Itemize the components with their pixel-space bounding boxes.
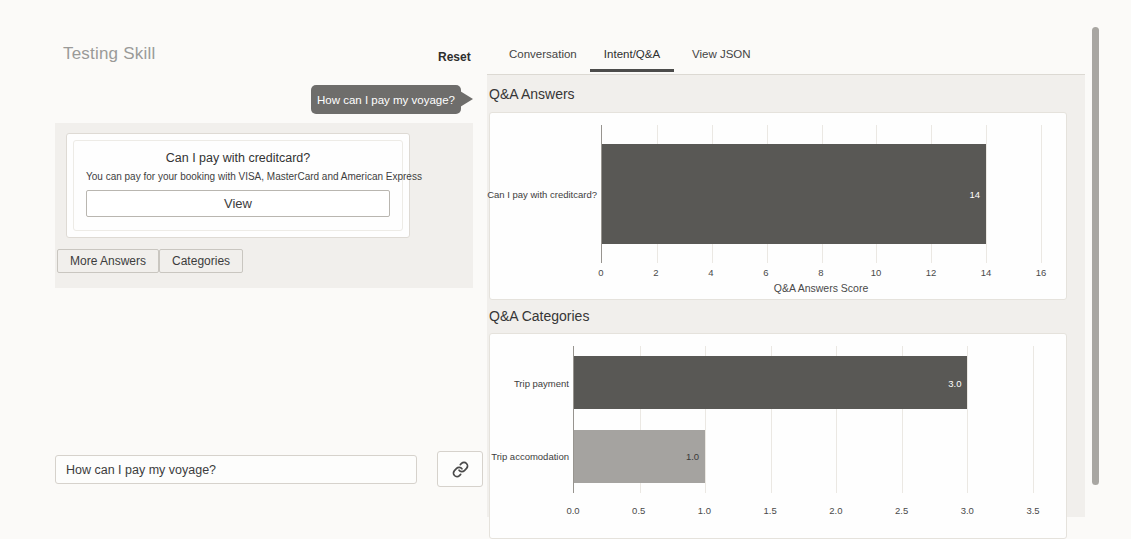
- tab-intent-qa[interactable]: Intent/Q&A: [590, 48, 674, 72]
- x-tick-label: 0.5: [632, 505, 645, 516]
- tab-view-json[interactable]: View JSON: [692, 48, 751, 60]
- tab-conversation[interactable]: Conversation: [509, 48, 577, 60]
- answer-title: Can I pay with creditcard?: [86, 151, 390, 165]
- bar-1: 14: [602, 144, 986, 243]
- category-label: Trip payment: [514, 377, 569, 388]
- y-axis-labels: Can I pay with creditcard?: [494, 125, 597, 263]
- x-tick-label: 2.0: [829, 505, 842, 516]
- message-input[interactable]: [55, 455, 417, 484]
- x-tick-label: 3.5: [1026, 505, 1039, 516]
- send-button[interactable]: [437, 451, 483, 487]
- view-button[interactable]: View: [86, 190, 390, 217]
- tabs-divider: [487, 74, 1085, 75]
- categories-button[interactable]: Categories: [159, 249, 243, 273]
- bar-value-label: 1.0: [686, 451, 699, 462]
- x-tick-label: 6: [763, 267, 768, 278]
- x-tick-label: 2.5: [895, 505, 908, 516]
- plot-area: 14: [601, 125, 1041, 263]
- plot-area: 3.01.0: [573, 346, 1033, 493]
- x-tick-label: 2: [653, 267, 658, 278]
- x-tick-label: 3.0: [961, 505, 974, 516]
- x-axis-ticks: 0246810121416: [601, 267, 1041, 279]
- gridline: [986, 125, 987, 263]
- qa-categories-chart: Trip paymentTrip accomodation 3.01.0 0.0…: [489, 333, 1067, 539]
- y-axis-labels: Trip paymentTrip accomodation: [494, 346, 569, 493]
- x-tick-label: 10: [871, 267, 882, 278]
- bar-2: 1.0: [574, 430, 705, 483]
- x-axis-title: Q&A Answers Score: [601, 282, 1041, 294]
- x-tick-label: 0: [598, 267, 603, 278]
- gridline: [1041, 125, 1042, 263]
- x-tick-label: 14: [981, 267, 992, 278]
- qa-categories-heading: Q&A Categories: [489, 308, 589, 324]
- bubble-tail: [460, 91, 473, 107]
- link-icon: [452, 461, 469, 478]
- bot-response-area: Can I pay with creditcard? You can pay f…: [55, 123, 473, 288]
- x-axis-ticks: 0.00.51.01.52.02.53.03.5: [573, 505, 1033, 517]
- user-message-bubble: How can I pay my voyage?: [311, 85, 461, 114]
- answer-options-row: More AnswersCategories: [57, 249, 243, 273]
- category-label: Can I pay with creditcard?: [487, 189, 597, 200]
- user-message-text: How can I pay my voyage?: [317, 94, 455, 106]
- scrollbar-thumb[interactable]: [1092, 27, 1099, 485]
- x-tick-label: 12: [926, 267, 937, 278]
- bar-value-label: 14: [970, 188, 981, 199]
- x-tick-label: 0.0: [566, 505, 579, 516]
- answer-card-inner: Can I pay with creditcard? You can pay f…: [73, 140, 403, 231]
- bar-1: 3.0: [574, 356, 967, 409]
- page-title: Testing Skill: [63, 44, 155, 64]
- x-tick-label: 4: [708, 267, 713, 278]
- more-answers-button[interactable]: More Answers: [57, 249, 159, 273]
- x-tick-label: 8: [818, 267, 823, 278]
- x-tick-label: 16: [1036, 267, 1047, 278]
- answer-subtitle: You can pay for your booking with VISA, …: [86, 171, 390, 182]
- answer-card: Can I pay with creditcard? You can pay f…: [66, 133, 410, 238]
- x-tick-label: 1.5: [764, 505, 777, 516]
- gridline: [967, 346, 968, 493]
- bar-value-label: 3.0: [948, 377, 961, 388]
- qa-answers-heading: Q&A Answers: [489, 86, 575, 102]
- x-tick-label: 1.0: [698, 505, 711, 516]
- reset-button[interactable]: Reset: [438, 50, 471, 64]
- gridline: [1033, 346, 1034, 493]
- qa-answers-chart: Can I pay with creditcard? 14 0246810121…: [489, 112, 1067, 300]
- category-label: Trip accomodation: [491, 451, 569, 462]
